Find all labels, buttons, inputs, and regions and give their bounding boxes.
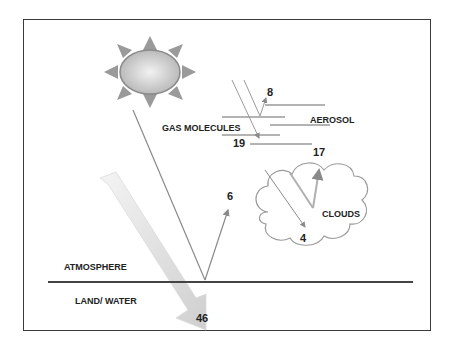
surface-reflection-ray — [133, 110, 228, 280]
land-water-label: LAND/ WATER — [75, 297, 137, 306]
gas-molecules-label: GAS MOLECULES — [162, 124, 241, 133]
value-absorbed-gas: 19 — [233, 138, 245, 149]
atmosphere-label: ATMOSPHERE — [64, 263, 127, 272]
diagram-canvas — [0, 0, 455, 357]
value-reflected-surface: 6 — [227, 191, 233, 202]
sun-icon — [104, 36, 196, 108]
clouds-label: CLOUDS — [322, 210, 360, 219]
cloud-icon — [256, 163, 368, 245]
value-absorbed-surface: 46 — [196, 313, 208, 324]
value-scattered-aerosol: 8 — [267, 87, 273, 98]
absorbed-surface-arrow — [100, 172, 206, 330]
value-absorbed-clouds: 4 — [300, 233, 306, 244]
value-reflected-clouds: 17 — [313, 147, 325, 158]
aerosol-label: AEROSOL — [310, 116, 355, 125]
